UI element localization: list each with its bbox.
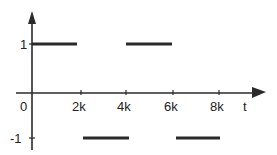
y-tick-label-1: 1 (20, 37, 27, 52)
x-tick-label-6k: 6k (164, 99, 178, 114)
x-axis-arrow-icon (252, 87, 266, 98)
chart-canvas: 1 -1 0 2k 4k 6k 8k t (0, 0, 277, 155)
x-tick-label-2k: 2k (72, 99, 86, 114)
square-wave-chart: 1 -1 0 2k 4k 6k 8k t (0, 0, 277, 155)
x-tick-label-4k: 4k (117, 99, 131, 114)
y-axis-arrow-icon (28, 11, 36, 24)
origin-label: 0 (20, 99, 27, 114)
y-tick-label-neg1: -1 (10, 131, 22, 146)
x-tick-label-8k: 8k (210, 99, 224, 114)
x-axis-label: t (243, 99, 247, 114)
